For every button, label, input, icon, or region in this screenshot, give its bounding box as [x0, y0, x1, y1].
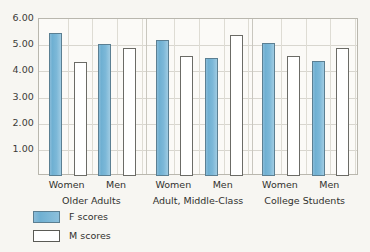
x-group-label: Adult, Middle-Class: [145, 196, 252, 206]
bar-f-score: [98, 44, 111, 176]
bar-chart: 6.00 5.00 4.00 3.00 2.00 1.00 WomenMenOl…: [0, 0, 370, 252]
bar-f-score: [205, 58, 218, 176]
x-subgroup-label: Men: [91, 180, 140, 190]
bar-m-score: [74, 62, 87, 176]
y-tick-label: 2.00: [0, 118, 34, 128]
slot-separator: [248, 19, 249, 174]
slot-separator: [142, 19, 143, 174]
x-group-label: College Students: [251, 196, 358, 206]
legend-swatch-m-icon: [33, 230, 60, 242]
x-subgroup-label: Men: [305, 180, 354, 190]
bar-m-score: [180, 56, 193, 176]
bar-m-score: [336, 48, 349, 176]
bar-m-score: [230, 35, 243, 176]
slot-separator: [174, 19, 175, 174]
bar-f-score: [49, 33, 62, 176]
slot-separator: [355, 19, 356, 174]
bar-f-score: [156, 40, 169, 176]
bar-f-score: [262, 43, 275, 176]
x-subgroup-label: Men: [198, 180, 247, 190]
x-group-label: Older Adults: [38, 196, 145, 206]
slot-separator: [92, 19, 93, 174]
slot-separator: [117, 19, 118, 174]
x-subgroup-label: Women: [149, 180, 198, 190]
y-tick-label: 6.00: [0, 13, 34, 23]
x-subgroup-label: Women: [42, 180, 91, 190]
plot-area: [38, 18, 358, 175]
group-separator: [252, 19, 253, 174]
gridline: [39, 45, 357, 46]
y-tick-label: 3.00: [0, 92, 34, 102]
slot-separator: [306, 19, 307, 174]
legend-label-m: M scores: [69, 231, 111, 241]
bar-m-score: [287, 56, 300, 176]
y-tick-label: 5.00: [0, 39, 34, 49]
legend-label-f: F scores: [69, 212, 108, 222]
bar-m-score: [123, 48, 136, 176]
slot-separator: [281, 19, 282, 174]
group-separator: [146, 19, 147, 174]
y-axis: 6.00 5.00 4.00 3.00 2.00 1.00: [0, 18, 34, 175]
gridline: [39, 98, 357, 99]
slot-separator: [330, 19, 331, 174]
slot-separator: [68, 19, 69, 174]
x-subgroup-label: Women: [255, 180, 304, 190]
slot-separator: [199, 19, 200, 174]
gridline: [39, 124, 357, 125]
y-tick-label: 1.00: [0, 144, 34, 154]
y-tick-label: 4.00: [0, 65, 34, 75]
slot-separator: [224, 19, 225, 174]
gridline: [39, 150, 357, 151]
legend-swatch-f-icon: [33, 211, 60, 223]
gridline: [39, 71, 357, 72]
bar-f-score: [312, 61, 325, 176]
